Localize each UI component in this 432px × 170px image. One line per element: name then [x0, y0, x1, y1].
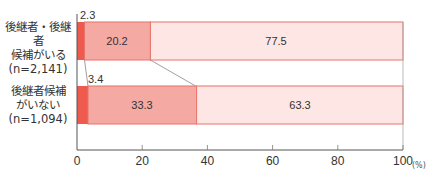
tick-label-40: 40 — [201, 154, 215, 168]
bar1-value-1: 2.3 — [80, 9, 95, 21]
bar-without-successor: 3.4 33.3 63.3 — [77, 73, 403, 124]
tick-label-20: 20 — [136, 154, 150, 168]
bar1-value-2: 20.2 — [106, 35, 127, 47]
bar1-segment-1 — [77, 22, 85, 60]
tick-label-0: 0 — [74, 154, 81, 168]
bar2-value-3: 63.3 — [289, 99, 310, 111]
connector-line-2 — [150, 60, 195, 86]
tick-label-60: 60 — [266, 154, 280, 168]
stacked-bar-chart: 後継者・後継者 候補がいる (n=2,141) 後継者候補 がいない (n=1,… — [0, 0, 432, 170]
tick-label-80: 80 — [331, 154, 345, 168]
tick-label-100: 100 — [393, 154, 413, 168]
unit-label: (%) — [412, 161, 426, 170]
bar2-segment-1 — [77, 86, 88, 124]
bar2-value-1: 3.4 — [88, 73, 103, 85]
chart-plot-area: 2.3 20.2 77.5 3.4 33.3 63.3 0 20 — [0, 0, 432, 170]
x-ticks — [142, 145, 403, 150]
bar1-value-3: 77.5 — [265, 35, 286, 47]
bar-with-successor: 2.3 20.2 77.5 — [77, 9, 403, 60]
bar2-value-2: 33.3 — [131, 99, 152, 111]
